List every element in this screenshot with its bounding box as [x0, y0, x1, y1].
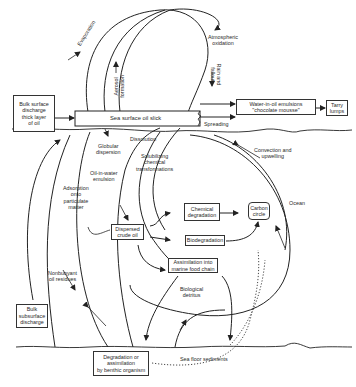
carbon-circle-box: Carbon circle [248, 202, 270, 220]
text: transformations [136, 166, 173, 172]
text: circle [253, 211, 266, 217]
text: onto [71, 191, 82, 197]
sea-floor-sediments-label: Sea floor sediments [180, 356, 228, 362]
convection-upwelling-label: Convection and upwelling [254, 147, 291, 160]
atmospheric-oxidation-label: Atmospheric oxidation [208, 34, 238, 47]
text: formation [119, 75, 125, 97]
text: Globular [98, 143, 118, 149]
ocean-label: Ocean [289, 200, 305, 206]
text: Biological [180, 286, 203, 292]
text: matter [68, 204, 83, 210]
text: detritus [183, 292, 201, 298]
text: oil residues [49, 276, 76, 282]
text: "chocolate mousse" [252, 107, 299, 113]
nonbuoyant-label: Nonbuoyant oil residues [48, 270, 77, 283]
dispersed-crude-oil-box: Dispersed crude oil [111, 224, 144, 240]
benthic-organism-box: Degradation or assimilation by benthic o… [93, 351, 149, 376]
assimilation-box: Assimilation into marine food chain [168, 258, 218, 273]
rain-fallout-label: Rain and fallout [209, 64, 222, 86]
text: Aerosol [113, 77, 119, 95]
biological-detritus-label: Biological detritus [180, 286, 203, 299]
biodegradation-box: Biodegradation [185, 235, 225, 246]
oil-fate-diagram: Bulk surface discharge thick layer of oi… [0, 0, 356, 387]
text: degradation [188, 212, 216, 218]
aerosol-formation-label: Aerosol formation [113, 75, 126, 97]
text: upwelling [261, 153, 283, 159]
dissolution-label: Dissolution [130, 136, 156, 142]
text: Nonbuoyant [48, 270, 77, 276]
text: crude oil [117, 232, 137, 238]
text: Oil-in-water [90, 170, 118, 176]
text: Biodegradation [187, 237, 223, 243]
text: Solubilizing [141, 153, 168, 159]
tarry-lumps-box: Tarry lumps [326, 100, 348, 116]
text: emulsion [93, 176, 115, 182]
text: dispersion [96, 149, 121, 155]
globular-dispersion-label: Globular dispersion [96, 143, 121, 156]
oil-in-water-label: Oil-in-water emulsion [90, 170, 118, 183]
text: particulate [63, 198, 88, 204]
text: Adsorption [63, 185, 89, 191]
bulk-subsurface-discharge-box: Bulk subsurface discharge [16, 304, 48, 328]
chemical-degradation-box: Chemical degradation [184, 203, 220, 221]
text: oxidation [212, 40, 234, 46]
text: discharge [20, 319, 43, 325]
text: marine food chain [172, 266, 215, 272]
bulk-surface-discharge-box: Bulk surface discharge thick layer of oi… [13, 95, 55, 132]
text: by benthic organism [97, 367, 145, 373]
text: chemical [144, 159, 165, 165]
text: Rain and [216, 64, 222, 86]
spreading-label: Spreading [204, 121, 229, 127]
text: Atmospheric [208, 34, 238, 40]
oil-slick-label: Sea surface oil slick [110, 115, 161, 121]
diagram-lines [0, 0, 356, 387]
text: Convection and [254, 147, 291, 153]
adsorption-label: Adsorption onto particulate matter [63, 185, 89, 211]
text: lumps [330, 108, 344, 114]
text: of oil [28, 120, 39, 126]
text: fallout [210, 67, 216, 81]
solubilizing-label: Solubilizing chemical transformations [136, 153, 173, 172]
emulsion-box: Water-in-oil emulsions "chocolate mousse… [236, 99, 316, 115]
